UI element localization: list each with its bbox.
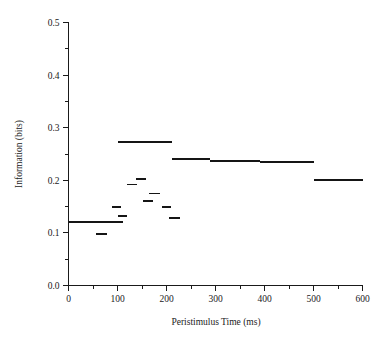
x-tick-label: 200 xyxy=(159,294,174,304)
y-tick-label: 0.2 xyxy=(48,176,60,186)
x-tick-label: 0 xyxy=(66,294,71,304)
data-series-segments xyxy=(69,142,363,285)
x-tick-label: 300 xyxy=(208,294,223,304)
y-axis-title: Information (bits) xyxy=(14,120,25,188)
x-axis-ticks xyxy=(69,286,363,292)
y-axis-ticks xyxy=(63,23,69,286)
x-tick-label: 500 xyxy=(306,294,321,304)
x-axis-tick-labels: 0100200300400500600 xyxy=(66,294,370,304)
chart-figure: 0.00.10.20.30.40.5 0100200300400500600 P… xyxy=(0,0,390,339)
y-tick-label: 0.4 xyxy=(48,71,60,81)
x-tick-label: 100 xyxy=(110,294,125,304)
x-tick-label: 400 xyxy=(257,294,272,304)
plot-axes xyxy=(69,23,363,286)
y-axis-tick-labels: 0.00.10.20.30.40.5 xyxy=(48,18,60,291)
x-tick-label: 600 xyxy=(355,294,370,304)
y-tick-label: 0.1 xyxy=(48,228,60,238)
y-tick-label: 0.5 xyxy=(48,18,60,28)
information-vs-peristimulus-time-chart: 0.00.10.20.30.40.5 0100200300400500600 P… xyxy=(0,0,390,339)
x-axis-title: Peristimulus Time (ms) xyxy=(171,317,260,328)
y-tick-label: 0.3 xyxy=(48,123,60,133)
y-tick-label: 0.0 xyxy=(48,281,60,291)
